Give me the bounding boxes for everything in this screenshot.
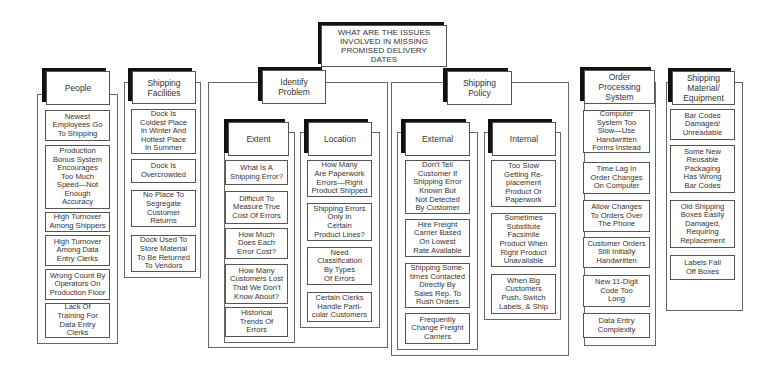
order-processing-item: Data Entry Complexity	[583, 313, 650, 338]
external-item: Hire Freight Carrier Based On Lowest Rat…	[405, 219, 470, 257]
external-item: Shipping Some- times Contacted Directly …	[405, 263, 470, 308]
shipping-material-item: Old Shipping Boxes Easily Damaged, Requi…	[670, 200, 735, 248]
people-item: High Turnover Among Data Entry Clerks	[45, 235, 110, 266]
extent-item: How Many Customers Lost That We Don't Kn…	[225, 264, 288, 304]
order-processing-item: Customer Orders Still Initially Handwrit…	[583, 237, 650, 268]
people-header: People	[46, 71, 110, 105]
order-processing-item: Computer System Too Slow—Use Handwritten…	[583, 110, 650, 153]
shipping-facilities-item: No Place To Segregate Customer Returns	[131, 190, 196, 227]
shipping-material-header: Shipping Material/ Equipment	[672, 71, 735, 105]
external-item: Don't Tell Customer If Shipping Error Kn…	[405, 160, 470, 214]
shipping-material-item: Labels Fall Off Boxes	[670, 255, 735, 280]
internal-item: When Big Customers Push, Switch Labels, …	[491, 274, 556, 314]
location-item: Shipping Errors Only In Certain Product …	[307, 203, 372, 241]
location-item: How Many Are Paperwork Errors—Right Prod…	[307, 160, 372, 197]
order-processing-item: Time Lag In Order Changes On Computer	[583, 162, 650, 194]
internal-item: Too Slow Getting Re- placement Product O…	[491, 160, 556, 207]
location-item: Certain Clerks Handle Parti- cular Custo…	[307, 292, 372, 322]
people-item: Newest Employees Go To Shipping	[45, 110, 110, 141]
extent-header: Extent	[228, 122, 289, 156]
shipping-facilities-header: Shipping Facilities	[132, 71, 196, 104]
people-item: Lack Of Training For Data Entry Clerks	[45, 303, 110, 338]
order-processing-header: Order Processing System	[584, 70, 655, 104]
people-item: Wrong Count By Operators On Production F…	[45, 269, 110, 300]
location-item: Need Classification By Types Of Errors	[307, 247, 372, 285]
diagram-title: WHAT ARE THE ISSUES INVOLVED IN MISSING …	[321, 25, 447, 67]
people-item: High Turnover Among Shippers	[45, 212, 110, 232]
extent-item: What Is A Shipping Error?	[225, 160, 288, 185]
extent-item: Historical Trends Of Errors	[225, 307, 288, 337]
order-processing-item: New 11-Digit Code Too Long	[583, 275, 650, 307]
extent-item: How Much Does Each Error Cost?	[225, 228, 288, 259]
shipping-policy-header: Shipping Policy	[447, 71, 512, 105]
shipping-facilities-item: Dock Used To Store Material To Be Return…	[131, 235, 196, 272]
shipping-material-item: Some New Reusable Packaging Has Wrong Ba…	[670, 145, 735, 193]
internal-item: Sometimes Substitute Facsimile Product W…	[491, 213, 556, 267]
shipping-facilities-item: Dock Is Overcrowded	[131, 159, 196, 183]
people-item: Production Bonus System Encourages Too M…	[45, 145, 110, 209]
shipping-material-item: Bar Codes Damaged/ Unreadable	[670, 109, 735, 140]
external-header: External	[405, 122, 470, 156]
location-header: Location	[308, 122, 372, 156]
order-processing-item: Allow Changes To Orders Over The Phone	[583, 200, 650, 232]
extent-item: Difficult To Measure True Cost Of Errors	[225, 191, 288, 224]
identify-problem-header: Identify Problem	[262, 70, 326, 104]
internal-header: Internal	[492, 122, 556, 156]
shipping-facilities-item: Dock Is Coldest Place In Winter And Hott…	[131, 109, 196, 154]
external-item: Frequently Change Freight Carriers	[405, 313, 470, 344]
